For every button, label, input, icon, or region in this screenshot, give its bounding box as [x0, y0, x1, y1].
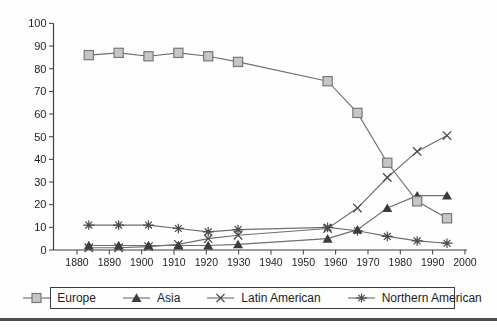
marker-square — [84, 51, 93, 60]
x-tick-label: 1940 — [259, 256, 283, 268]
y-tick-label: 90 — [34, 40, 46, 52]
x-tick-label: 1980 — [389, 256, 413, 268]
chart-figure: 0102030405060708090100188018901900191019… — [0, 0, 497, 327]
legend: Europe Asia Latin American — [50, 287, 455, 309]
series-line-asia — [89, 196, 447, 246]
marker-square — [353, 108, 362, 117]
europe-square-icon — [23, 292, 50, 304]
marker-asterisk — [233, 225, 244, 235]
legend-item-northern-american: Northern American — [348, 291, 482, 305]
page-bottom-rule — [0, 318, 497, 321]
series-line-europe — [89, 53, 447, 218]
marker-asterisk — [143, 220, 154, 230]
x-tick-label: 1880 — [65, 256, 89, 268]
latin-american-x-icon — [207, 292, 234, 304]
marker-square — [204, 52, 213, 61]
x-tick-label: 1890 — [98, 256, 122, 268]
y-tick-label: 0 — [40, 244, 46, 256]
marker-square — [174, 48, 183, 57]
legend-item-latin-american: Latin American — [207, 291, 320, 305]
legend-label-europe: Europe — [57, 291, 96, 305]
line-chart: 0102030405060708090100188018901900191019… — [0, 0, 497, 285]
marker-square — [233, 57, 242, 66]
northern-american-asterisk-icon — [348, 292, 375, 304]
marker-triangle — [352, 225, 362, 234]
marker-square — [114, 48, 123, 57]
y-tick-label: 50 — [34, 131, 46, 143]
marker-asterisk — [83, 220, 94, 230]
legend-item-europe: Europe — [23, 291, 96, 305]
legend-label-latin-american: Latin American — [241, 291, 320, 305]
marker-x-cross — [413, 147, 421, 155]
x-tick-label: 1920 — [195, 256, 219, 268]
legend-item-asia: Asia — [123, 291, 180, 305]
y-tick-label: 80 — [34, 63, 46, 75]
y-tick-label: 20 — [34, 198, 46, 210]
series-line-northern-american — [89, 225, 447, 243]
legend-label-northern-american: Northern American — [382, 291, 482, 305]
y-tick-label: 70 — [34, 85, 46, 97]
marker-square — [442, 214, 451, 223]
marker-asterisk — [442, 238, 453, 248]
y-tick-label: 10 — [34, 221, 46, 233]
x-tick-label: 1950 — [292, 256, 316, 268]
x-tick-label: 1970 — [356, 256, 380, 268]
y-tick-label: 40 — [34, 153, 46, 165]
y-tick-label: 100 — [28, 17, 46, 29]
x-tick-label: 1900 — [130, 256, 154, 268]
marker-triangle — [382, 203, 392, 212]
marker-x-cross — [353, 204, 361, 212]
marker-square — [323, 77, 332, 86]
marker-asterisk — [173, 224, 184, 234]
x-tick-label: 1910 — [162, 256, 186, 268]
x-tick-label: 1960 — [324, 256, 348, 268]
marker-asterisk — [113, 220, 124, 230]
asia-triangle-icon — [123, 292, 150, 304]
x-tick-label: 1990 — [421, 256, 445, 268]
y-tick-label: 30 — [34, 176, 46, 188]
x-tick-label: 2000 — [453, 256, 477, 268]
legend-label-asia: Asia — [157, 291, 180, 305]
marker-asterisk — [412, 236, 423, 246]
y-tick-label: 60 — [34, 108, 46, 120]
series-line-latin-american — [89, 136, 447, 248]
x-tick-label: 1930 — [227, 256, 251, 268]
marker-square — [413, 197, 422, 206]
marker-square — [383, 158, 392, 167]
marker-asterisk — [382, 232, 393, 242]
marker-square — [144, 52, 153, 61]
marker-x-cross — [443, 131, 451, 139]
marker-x-cross — [383, 173, 391, 181]
